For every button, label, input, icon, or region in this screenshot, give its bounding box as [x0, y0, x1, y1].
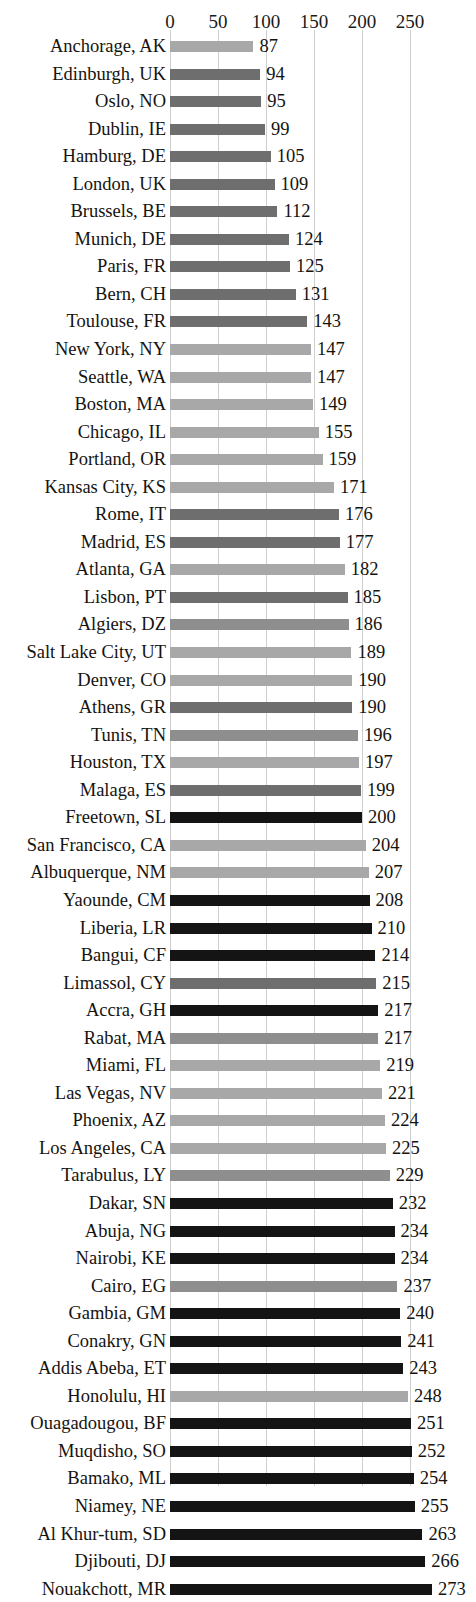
bar-row: Addis Abeba, ET243 [0, 1355, 476, 1383]
category-label: Toulouse, FR [67, 308, 166, 336]
bar-row: Anchorage, AK87 [0, 33, 476, 61]
bar [170, 592, 348, 603]
bar [170, 1226, 395, 1237]
category-label: Las Vegas, NV [55, 1080, 166, 1108]
bar-row: Brussels, BE112 [0, 198, 476, 226]
x-axis-tick-150: 150 [300, 11, 329, 33]
bar-row: Edinburgh, UK94 [0, 61, 476, 89]
bar [170, 261, 290, 272]
category-label: Anchorage, AK [50, 33, 166, 61]
bar-value-label: 125 [296, 253, 324, 281]
bar [170, 316, 307, 327]
category-label: Oslo, NO [95, 88, 166, 116]
bar-value-label: 234 [401, 1245, 429, 1273]
bar [170, 840, 366, 851]
bar-track: 124 [170, 226, 476, 254]
bar-row: New York, NY147 [0, 336, 476, 364]
bar-track: 208 [170, 887, 476, 915]
category-label: Liberia, LR [80, 915, 166, 943]
bar-row: Gambia, GM240 [0, 1300, 476, 1328]
bar-track: 87 [170, 33, 476, 61]
x-axis-tick-labels: 050100150200250 [0, 11, 476, 33]
category-label: Addis Abeba, ET [38, 1355, 166, 1383]
bar-track: 232 [170, 1190, 476, 1218]
bar-row: Cairo, EG237 [0, 1273, 476, 1301]
bar-row: Malaga, ES199 [0, 777, 476, 805]
bar-row: Ouagadougou, BF251 [0, 1410, 476, 1438]
bar [170, 124, 265, 135]
bar [170, 1584, 432, 1595]
bar [170, 1033, 378, 1044]
bar-row: Boston, MA149 [0, 391, 476, 419]
bar-value-label: 196 [364, 722, 392, 750]
bar [170, 1005, 378, 1016]
category-label: Gambia, GM [68, 1300, 166, 1328]
bar-track: 210 [170, 915, 476, 943]
bar [170, 206, 277, 217]
bar [170, 96, 261, 107]
bar-value-label: 219 [386, 1052, 414, 1080]
bar-track: 217 [170, 1025, 476, 1053]
bar-row: Salt Lake City, UT189 [0, 639, 476, 667]
bar-row: Al Khur-tum, SD263 [0, 1521, 476, 1549]
category-label: Salt Lake City, UT [26, 639, 166, 667]
bar-value-label: 273 [438, 1576, 466, 1602]
bar-row: Bangui, CF214 [0, 942, 476, 970]
bar-track: 243 [170, 1355, 476, 1383]
bar-row: Madrid, ES177 [0, 529, 476, 557]
category-label: Houston, TX [70, 749, 166, 777]
bar-track: 199 [170, 777, 476, 805]
bar-track: 196 [170, 722, 476, 750]
bar-value-label: 189 [357, 639, 385, 667]
bar-row: Lisbon, PT185 [0, 584, 476, 612]
category-label: Yaounde, CM [63, 887, 166, 915]
category-label: Ouagadougou, BF [30, 1410, 166, 1438]
bar [170, 730, 358, 741]
bar-row: Athens, GR190 [0, 694, 476, 722]
bar-row: Nairobi, KE234 [0, 1245, 476, 1273]
bar-value-label: 147 [317, 364, 345, 392]
bar-value-label: 217 [384, 997, 412, 1025]
bar [170, 1060, 380, 1071]
bar-track: 176 [170, 501, 476, 529]
bar-value-label: 241 [407, 1328, 435, 1356]
bar [170, 564, 345, 575]
category-label: Atlanta, GA [76, 556, 166, 584]
bar-value-label: 229 [396, 1162, 424, 1190]
bar-track: 229 [170, 1162, 476, 1190]
bar-row: Tarabulus, LY229 [0, 1162, 476, 1190]
bar-value-label: 177 [346, 529, 374, 557]
bar-track: 95 [170, 88, 476, 116]
bar-track: 273 [170, 1576, 476, 1602]
category-label: Muqdisho, SO [58, 1438, 166, 1466]
x-axis-tick-100: 100 [252, 11, 281, 33]
bar [170, 1308, 400, 1319]
bar-row: Chicago, IL155 [0, 419, 476, 447]
category-label: Nairobi, KE [76, 1245, 166, 1273]
bar-value-label: 95 [267, 88, 286, 116]
bar-value-label: 171 [340, 474, 368, 502]
bar-row: Denver, CO190 [0, 667, 476, 695]
category-label: Abuja, NG [85, 1218, 166, 1246]
bar-track: 112 [170, 198, 476, 226]
bar-value-label: 243 [409, 1355, 437, 1383]
bar-value-label: 234 [401, 1218, 429, 1246]
bar [170, 1529, 422, 1540]
bar-row: Munich, DE124 [0, 226, 476, 254]
bar-track: 241 [170, 1328, 476, 1356]
category-label: Athens, GR [79, 694, 166, 722]
bar-row: Houston, TX197 [0, 749, 476, 777]
bar-value-label: 149 [319, 391, 347, 419]
bar-track: 125 [170, 253, 476, 281]
bar [170, 1115, 385, 1126]
bar-value-label: 190 [358, 667, 386, 695]
bar-row: Muqdisho, SO252 [0, 1438, 476, 1466]
bar-value-label: 112 [283, 198, 310, 226]
category-label: Al Khur-tum, SD [37, 1521, 166, 1549]
bar-track: 155 [170, 419, 476, 447]
category-label: Paris, FR [97, 253, 166, 281]
bar-track: 109 [170, 171, 476, 199]
bar-row: Dakar, SN232 [0, 1190, 476, 1218]
bar-value-label: 207 [375, 859, 403, 887]
